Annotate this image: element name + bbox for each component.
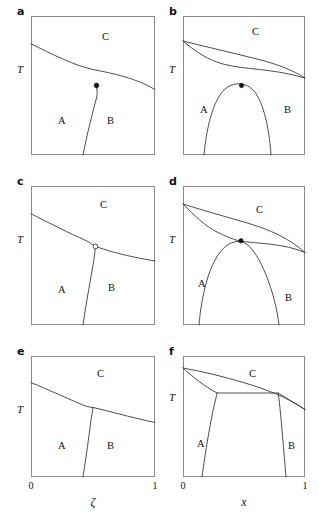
panel-c-plot: C A B [31, 186, 155, 325]
panel-e-tick-min: 0 [24, 481, 38, 491]
panel-letter-e: e [17, 346, 24, 357]
panel-a: C A B [31, 16, 155, 155]
panel-e-frame [32, 357, 155, 477]
panel-a-region-c: C [102, 31, 109, 42]
panel-d-y-label: T [169, 234, 175, 245]
panel-f-tick-min: 0 [176, 481, 190, 491]
panel-b-critical-point [239, 83, 243, 87]
panel-letter-b: b [169, 6, 177, 17]
panel-d-region-b: B [285, 292, 292, 303]
panel-f: C A B [183, 356, 305, 477]
panel-b-y-label: T [169, 64, 175, 75]
panel-e-x-label: ζ [31, 496, 155, 508]
panel-c-region-c: C [100, 199, 107, 210]
panel-c-frame [32, 187, 155, 325]
panel-a-plot: C A B [31, 16, 155, 155]
panel-letter-f: f [169, 346, 174, 357]
panel-f-tick-max: 1 [298, 481, 312, 491]
panel-b-region-c: C [252, 26, 259, 37]
panel-b-region-b: B [284, 104, 291, 115]
panel-e: C A B [31, 356, 155, 477]
panel-d-tangent-point [239, 239, 243, 243]
panel-letter-d: d [169, 176, 177, 187]
panel-e-tick-max: 1 [148, 481, 162, 491]
panel-b: C A B [183, 16, 305, 155]
panel-f-frame [184, 357, 305, 477]
panel-d-plot: C A B [183, 186, 305, 325]
panel-c-triple-point [93, 244, 98, 249]
panel-a-region-a: A [58, 115, 66, 126]
panel-d-region-c: C [256, 204, 263, 215]
panel-d: C A B [183, 186, 305, 325]
panel-e-region-c: C [97, 368, 104, 379]
panel-f-region-b: B [288, 440, 295, 451]
panel-f-region-a: A [197, 438, 205, 449]
panel-a-critical-point [94, 83, 99, 88]
panel-f-plot: C A B [183, 356, 305, 477]
panel-d-region-a: A [198, 278, 206, 289]
panel-a-y-label: T [17, 64, 23, 75]
panel-e-region-b: B [107, 440, 114, 451]
panel-c-y-label: T [17, 234, 23, 245]
panel-c-region-b: B [108, 282, 115, 293]
panel-a-region-b: B [107, 115, 114, 126]
panel-e-plot: C A B [31, 356, 155, 477]
panel-f-region-c: C [249, 368, 256, 379]
panel-c: C A B [31, 186, 155, 325]
panel-f-y-label: T [169, 392, 175, 403]
panel-b-frame [184, 17, 305, 155]
panel-e-y-label: T [17, 404, 23, 415]
phase-diagram-figure: C A B a T C A B b T C A B [0, 0, 319, 522]
panel-f-x-label: x [183, 496, 305, 508]
panel-letter-a: a [17, 6, 24, 17]
panel-e-region-a: A [58, 440, 66, 451]
panel-c-region-a: A [58, 284, 66, 295]
panel-b-region-a: A [200, 104, 208, 115]
panel-a-frame [32, 17, 155, 155]
panel-b-plot: C A B [183, 16, 305, 155]
panel-letter-c: c [17, 176, 24, 187]
